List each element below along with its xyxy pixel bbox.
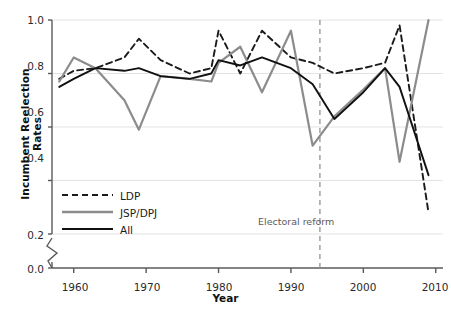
series-group	[59, 20, 428, 213]
y-axis-title: Incumbent Reelection Rates	[19, 54, 43, 214]
y-tick-label-0.0: 0.0	[14, 263, 44, 275]
series-line-jsp-dpj	[59, 20, 428, 162]
y-tick-label-0.4: 0.4	[14, 152, 44, 164]
legend-label-ldp: LDP	[120, 190, 140, 202]
electoral-reform-annotation-label: Electoral reform	[258, 216, 334, 227]
y-tick-label-0.6: 0.6	[14, 106, 44, 118]
x-tick-label-1990: 1990	[271, 281, 311, 293]
y-tick-label-0.8: 0.8	[14, 60, 44, 72]
x-axis-title: Year	[0, 292, 451, 304]
legend-label-all: All	[120, 224, 133, 236]
x-tick-label-2000: 2000	[343, 281, 383, 293]
x-tick-label-1970: 1970	[127, 281, 167, 293]
y-tick-label-1.0: 1.0	[14, 14, 44, 26]
line-chart-plot	[0, 0, 451, 311]
legend-label-jsp-dpj: JSP/DPJ	[120, 207, 157, 219]
series-line-all	[59, 57, 428, 175]
x-tick-label-1980: 1980	[199, 281, 239, 293]
y-tick-label-0.2: 0.2	[14, 229, 44, 241]
chart-container: Incumbent Reelection Rates Year 1.0 0.8 …	[0, 0, 451, 311]
x-tick-label-2010: 2010	[415, 281, 451, 293]
x-tick-label-1960: 1960	[55, 281, 95, 293]
